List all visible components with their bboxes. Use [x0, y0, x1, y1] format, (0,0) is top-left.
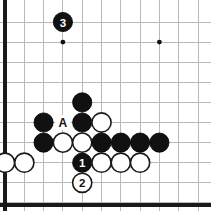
black-stone[interactable]: [34, 133, 53, 152]
stone-black[interactable]: [73, 113, 92, 132]
stone-white[interactable]: [92, 113, 111, 132]
white-stone[interactable]: [73, 133, 92, 152]
black-stone[interactable]: [73, 113, 92, 132]
stone-black[interactable]: [111, 133, 130, 152]
move-number-3: 3: [60, 17, 66, 29]
stone-black[interactable]: [92, 133, 111, 152]
black-stone[interactable]: [34, 113, 53, 132]
white-stone[interactable]: [0, 153, 15, 172]
stone-black[interactable]: [34, 133, 53, 152]
black-stone[interactable]: [131, 133, 150, 152]
point-label-a: A: [59, 116, 68, 130]
star-point: [157, 40, 162, 45]
stone-black[interactable]: [34, 113, 53, 132]
go-board-diagram: A 312: [0, 0, 211, 211]
board-edges: [0, 0, 211, 211]
stone-white[interactable]: [92, 153, 111, 172]
stone-black[interactable]: [73, 93, 92, 112]
black-stone[interactable]: [111, 133, 130, 152]
white-stone[interactable]: [111, 153, 130, 172]
move-number-1: 1: [79, 157, 86, 169]
stone-black[interactable]: [150, 133, 169, 152]
stone-white[interactable]: [111, 153, 130, 172]
board-point-labels: A: [55, 115, 70, 130]
board-grid: [0, 0, 211, 211]
stone-white[interactable]: [0, 153, 15, 172]
star-point: [61, 40, 66, 45]
white-stone[interactable]: [15, 153, 34, 172]
black-stone[interactable]: [150, 133, 169, 152]
stone-white[interactable]: [73, 133, 92, 152]
black-stone[interactable]: [92, 133, 111, 152]
white-stone[interactable]: [53, 133, 72, 152]
stone-black-1[interactable]: 1: [73, 153, 92, 172]
black-stone[interactable]: [73, 93, 92, 112]
move-number-2: 2: [79, 177, 85, 189]
go-board-canvas[interactable]: A 312: [0, 0, 211, 211]
stone-white-2[interactable]: 2: [73, 173, 92, 192]
stone-white[interactable]: [53, 133, 72, 152]
stone-black-3[interactable]: 3: [53, 12, 72, 31]
white-stone[interactable]: [131, 153, 150, 172]
white-stone[interactable]: [92, 153, 111, 172]
white-stone[interactable]: [92, 113, 111, 132]
stone-white[interactable]: [15, 153, 34, 172]
stone-black[interactable]: [131, 133, 150, 152]
stone-white[interactable]: [131, 153, 150, 172]
